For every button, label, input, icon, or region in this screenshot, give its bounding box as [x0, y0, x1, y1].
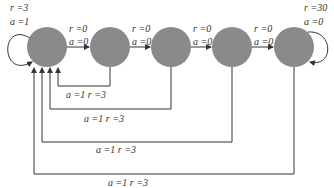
edge-s1-s2-r: r =0	[69, 23, 87, 34]
edge-s2-s3-r: r =0	[132, 23, 150, 34]
return-s5-s1-label: a =1 r =3	[108, 177, 148, 188]
edge-s3-s4-r: r =0	[193, 23, 211, 34]
return-s4-s1	[42, 67, 232, 142]
edge-s2-s3-a: a =0	[132, 36, 151, 47]
return-s4-s1-label: a =1 r =3	[96, 144, 136, 155]
s1-loop-r-label: r =3	[10, 2, 28, 13]
state-s2	[90, 27, 130, 67]
s5-loop-a-label: a =0	[304, 16, 323, 27]
state-s5	[274, 27, 314, 67]
state-s4	[212, 27, 252, 67]
edge-s3-s4-a: a =0	[193, 36, 212, 47]
return-s2-s1	[58, 67, 110, 86]
s5-loop-r-label: r =30	[304, 2, 327, 13]
s1-loop-a-label: a =1	[10, 16, 29, 27]
state-s1	[27, 27, 67, 67]
return-s5-s1	[34, 67, 294, 174]
diagram-svg: r =3 a =1 r =30 a =0 r =0 a =0 r =0 a =0…	[0, 0, 334, 188]
return-s2-s1-label: a =1 r =3	[66, 89, 106, 100]
state-s3	[151, 27, 191, 67]
edge-s4-s5-a: a =0	[254, 36, 273, 47]
state-diagram: r =3 a =1 r =30 a =0 r =0 a =0 r =0 a =0…	[0, 0, 334, 188]
return-s3-s1-label: a =1 r =3	[84, 113, 124, 124]
edge-s4-s5-r: r =0	[254, 23, 272, 34]
edge-s1-s2-a: a =0	[69, 36, 88, 47]
